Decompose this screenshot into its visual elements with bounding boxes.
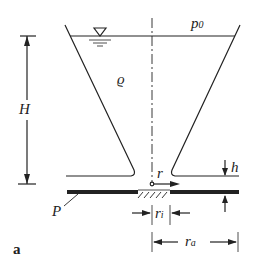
water-level-icon (94, 28, 106, 36)
radius-label: r (157, 166, 163, 181)
plate-label: P (52, 204, 61, 219)
outer-radius-label: ra (185, 234, 196, 249)
inner-radius-label: ri (155, 206, 164, 221)
panel-label: a (13, 242, 21, 257)
funnel-diagram (0, 0, 254, 267)
plate (67, 190, 138, 194)
density-label: ϱ (117, 72, 125, 87)
funnel-right-wall (171, 25, 240, 176)
gap-label: h (231, 160, 239, 175)
hatch-region (138, 192, 167, 198)
funnel-left-wall (65, 25, 135, 176)
pressure-label: p0 (191, 16, 204, 31)
height-label: H (19, 102, 30, 117)
